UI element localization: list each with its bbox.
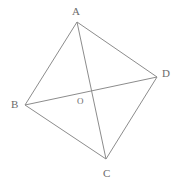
vertex-label-d: D bbox=[162, 68, 170, 79]
edge-bc bbox=[25, 105, 106, 159]
geometry-canvas bbox=[0, 0, 177, 187]
diagonal-bd bbox=[25, 77, 157, 105]
vertex-label-c: C bbox=[103, 168, 110, 179]
vertex-label-a: A bbox=[72, 6, 80, 17]
edge-cd bbox=[106, 77, 157, 159]
vertex-label-b: B bbox=[11, 99, 18, 110]
point-label-o: O bbox=[77, 97, 84, 106]
edge-ab bbox=[25, 22, 77, 105]
edge-da bbox=[77, 22, 157, 77]
geometry-figure: A B C D O bbox=[0, 0, 177, 187]
diagonals bbox=[25, 22, 157, 159]
